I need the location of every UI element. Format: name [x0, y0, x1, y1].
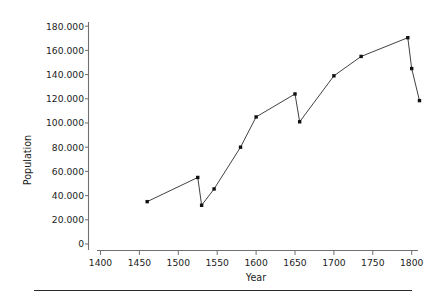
y-tick-label: 180.000	[46, 21, 84, 32]
data-point	[254, 115, 257, 118]
data-point	[196, 176, 199, 179]
x-tick-label: 1550	[206, 257, 230, 268]
y-tick-label: 80.000	[52, 142, 84, 153]
y-tick-label: 40.000	[52, 190, 84, 201]
y-tick-label: 60.000	[52, 166, 84, 177]
population-series-line	[147, 38, 419, 206]
x-axis-tick-labels: 1400 1450 1500 1550 1600 1650 1700 1750 …	[89, 257, 424, 268]
data-point	[410, 67, 413, 70]
x-tick-label: 1600	[244, 257, 268, 268]
y-axis-tick-labels: 180.000 160.000 140.000 120.000 100.000 …	[46, 21, 84, 250]
chart-figure: 180.000 160.000 140.000 120.000 100.000 …	[0, 0, 426, 303]
data-point	[418, 99, 421, 102]
data-point	[145, 200, 148, 203]
x-tick-label: 1800	[400, 257, 424, 268]
data-point	[298, 120, 301, 123]
y-tick-label: 0	[78, 238, 84, 249]
x-tick-label: 1650	[283, 257, 307, 268]
y-tick-label: 160.000	[46, 45, 84, 56]
data-point	[332, 74, 335, 77]
y-tick-label: 100.000	[46, 117, 84, 128]
population-series-markers	[145, 36, 421, 207]
data-point	[293, 92, 296, 95]
data-point	[212, 187, 215, 190]
footer-divider	[34, 290, 412, 291]
data-point	[406, 36, 409, 39]
population-line-chart: 180.000 160.000 140.000 120.000 100.000 …	[0, 0, 426, 303]
data-point	[359, 55, 362, 58]
data-point	[239, 146, 242, 149]
data-point	[200, 204, 203, 207]
x-tick-label: 1500	[167, 257, 191, 268]
x-tick-label: 1700	[322, 257, 346, 268]
x-tick-label: 1750	[361, 257, 385, 268]
x-axis-title: Year	[245, 272, 266, 283]
y-axis-title: Population	[22, 135, 33, 185]
y-tick-label: 20.000	[52, 214, 84, 225]
x-axis-tickmarks	[101, 251, 412, 256]
x-tick-label: 1450	[128, 257, 152, 268]
y-tick-label: 120.000	[46, 93, 84, 104]
y-tick-label: 140.000	[46, 69, 84, 80]
x-tick-label: 1400	[89, 257, 113, 268]
